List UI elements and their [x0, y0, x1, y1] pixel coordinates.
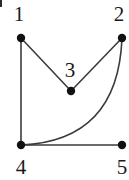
graph-figure: 12345 [0, 0, 129, 180]
vertex-label-5: 5 [117, 157, 128, 178]
graph-vertex-2 [118, 34, 126, 42]
graph-vertex-3 [67, 87, 75, 95]
graph-vertex-4 [17, 141, 25, 149]
graph-vertex-1 [17, 34, 25, 42]
vertex-label-4: 4 [16, 157, 27, 178]
graph-vertex-5 [118, 141, 126, 149]
graph-edge-1-3 [21, 38, 71, 91]
vertex-label-3: 3 [65, 60, 76, 81]
graph-canvas [0, 0, 129, 180]
vertex-label-1: 1 [14, 4, 25, 25]
vertex-label-2: 2 [114, 4, 125, 25]
